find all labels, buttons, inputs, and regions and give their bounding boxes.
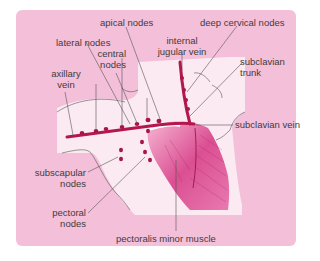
label-central-nodes: central nodes (88, 48, 126, 70)
label-subclavian-trunk: subclavian trunk (240, 56, 285, 78)
label-subscapular-nodes: subscapular nodes (24, 167, 86, 189)
label-lateral-nodes: lateral nodes (56, 37, 110, 48)
label-pectoralis-minor-muscle: pectoralis minor muscle (116, 233, 216, 244)
label-subclavian-vein: subclavian vein (235, 119, 300, 130)
label-deep-cervical-nodes: deep cervical nodes (200, 17, 285, 28)
label-axillary-vein: axillary vein (48, 68, 84, 90)
label-apical-nodes: apical nodes (100, 17, 153, 28)
label-internal-jugular-vein: internal jugular vein (150, 35, 214, 57)
label-pectoral-nodes: pectoral nodes (24, 207, 86, 229)
